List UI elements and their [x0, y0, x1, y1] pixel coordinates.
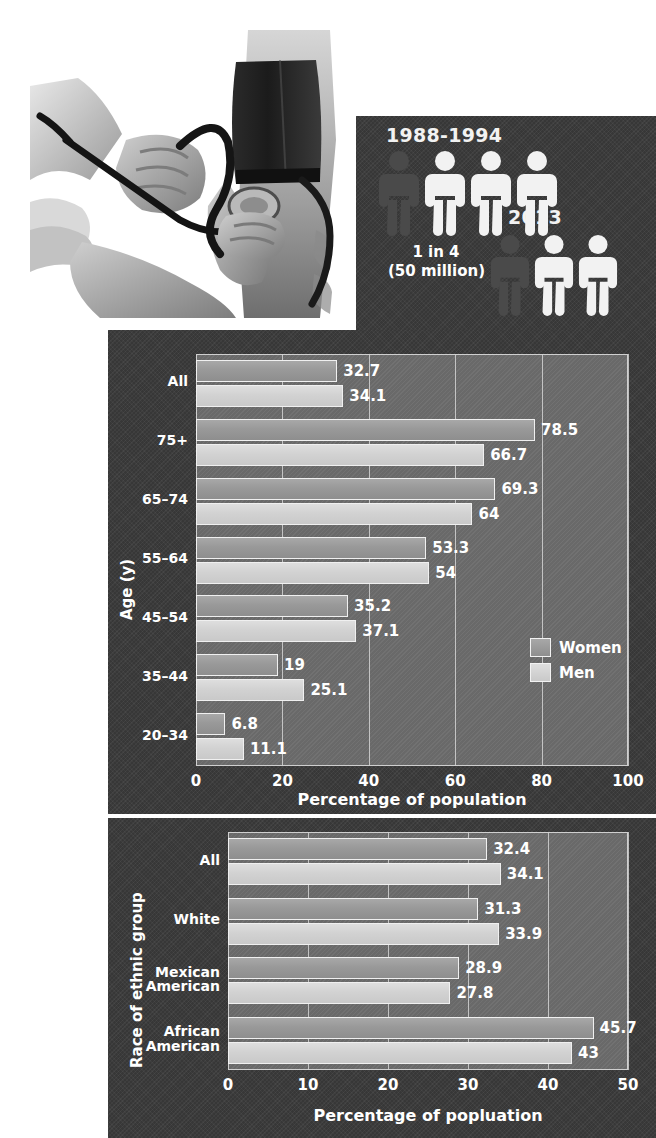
- blood-pressure-illustration: [30, 30, 358, 318]
- bar-men: [196, 385, 343, 407]
- prevalence-pictogram-panel: 1988-1994 1 in 4: [356, 116, 656, 338]
- x-tick-label: 40: [349, 772, 389, 790]
- bar-value-label: 35.2: [354, 597, 391, 615]
- bar-value-label: 34.1: [349, 387, 386, 405]
- legend-label-women: Women: [559, 639, 622, 657]
- ethnicity-chart-panel: Race of ethnic group 32.434.131.333.928.…: [108, 818, 656, 1138]
- x-tick-label: 20: [368, 1076, 408, 1094]
- person-icon-dark-2013: [490, 234, 530, 316]
- bar-value-label: 69.3: [501, 480, 538, 498]
- age-chart-panel: Age (y) 32.734.178.566.769.36453.35435.2…: [108, 330, 656, 814]
- legend-item-men: Men: [530, 663, 622, 682]
- person-icon-dark-1988: [378, 150, 420, 236]
- gridline: [628, 354, 629, 766]
- bar-men: [196, 562, 429, 584]
- chart1-legend: Women Men: [530, 638, 622, 688]
- bar-women: [228, 898, 478, 920]
- bar-value-label: 31.3: [484, 900, 521, 918]
- bar-men: [228, 1042, 572, 1064]
- gridline: [282, 354, 283, 766]
- gridline: [455, 354, 456, 766]
- bar-men: [196, 620, 356, 642]
- bar-women: [228, 957, 459, 979]
- bar-men: [228, 863, 501, 885]
- person-icon-light-1988-b: [470, 150, 512, 236]
- x-tick-label: 60: [435, 772, 475, 790]
- pictogram-period-2013: 2013: [508, 206, 562, 228]
- person-icon-light-2013-b: [578, 234, 618, 316]
- bar-women: [196, 537, 426, 559]
- bar-value-label: 27.8: [456, 984, 493, 1002]
- x-tick-label: 30: [448, 1076, 488, 1094]
- bar-men: [196, 444, 484, 466]
- bar-women: [228, 1017, 594, 1039]
- bar-women: [196, 654, 278, 676]
- legend-swatch-women: [530, 638, 551, 657]
- x-tick-label: 20: [262, 772, 302, 790]
- gridline: [369, 354, 370, 766]
- legend-label-men: Men: [559, 664, 595, 682]
- bar-value-label: 28.9: [465, 959, 502, 977]
- chart2-x-axis-title: Percentage of popluation: [228, 1106, 628, 1125]
- x-tick-label: 50: [608, 1076, 648, 1094]
- chart1-plot-area: [196, 354, 628, 766]
- bar-men: [228, 923, 499, 945]
- bar-value-label: 25.1: [310, 681, 347, 699]
- bar-value-label: 53.3: [432, 539, 469, 557]
- bar-value-label: 43: [578, 1044, 599, 1062]
- bar-women: [196, 595, 348, 617]
- bar-value-label: 37.1: [362, 622, 399, 640]
- x-tick-label: 0: [176, 772, 216, 790]
- category-label: 55–64: [108, 551, 188, 566]
- blood-pressure-photo: [30, 30, 358, 318]
- x-tick-label: 80: [522, 772, 562, 790]
- bar-value-label: 32.7: [343, 362, 380, 380]
- person-icon-light-2013-a: [534, 234, 574, 316]
- x-tick-label: 40: [528, 1076, 568, 1094]
- gridline: [542, 354, 543, 766]
- bar-men: [228, 982, 450, 1004]
- bar-women: [196, 419, 535, 441]
- pictogram-period-1988-1994: 1988-1994: [386, 124, 502, 146]
- category-label: 35–44: [108, 669, 188, 684]
- bar-women: [196, 713, 225, 735]
- legend-item-women: Women: [530, 638, 622, 657]
- bar-women: [228, 838, 487, 860]
- bar-value-label: 64: [478, 505, 499, 523]
- bar-men: [196, 738, 244, 760]
- bar-value-label: 34.1: [507, 865, 544, 883]
- category-label: 65–74: [108, 492, 188, 507]
- category-label: 45–54: [108, 610, 188, 625]
- category-label: All: [128, 853, 220, 868]
- bar-value-label: 45.7: [600, 1019, 637, 1037]
- bar-value-label: 11.1: [250, 740, 287, 758]
- bar-women: [196, 360, 337, 382]
- x-tick-label: 100: [608, 772, 648, 790]
- pictogram-ratio-1988-1994: 1 in 4: [376, 243, 496, 261]
- category-label: African American: [128, 1024, 220, 1053]
- bar-value-label: 32.4: [493, 840, 530, 858]
- legend-swatch-men: [530, 663, 551, 682]
- bar-men: [196, 679, 304, 701]
- bar-value-label: 78.5: [541, 421, 578, 439]
- category-label: 75+: [108, 433, 188, 448]
- bar-value-label: 6.8: [231, 715, 258, 733]
- chart1-x-axis-title: Percentage of population: [196, 790, 628, 809]
- category-label: 20–34: [108, 728, 188, 743]
- bar-men: [196, 503, 472, 525]
- bar-women: [196, 478, 495, 500]
- bar-value-label: 33.9: [505, 925, 542, 943]
- bar-value-label: 19: [284, 656, 305, 674]
- x-tick-label: 10: [288, 1076, 328, 1094]
- category-label: Mexican American: [128, 965, 220, 994]
- bar-value-label: 54: [435, 564, 456, 582]
- x-tick-label: 0: [208, 1076, 248, 1094]
- person-icon-light-1988-a: [424, 150, 466, 236]
- category-label: All: [108, 374, 188, 389]
- bar-value-label: 66.7: [490, 446, 527, 464]
- category-label: White: [128, 912, 220, 927]
- pictogram-count-1988-1994: (50 million): [364, 262, 509, 280]
